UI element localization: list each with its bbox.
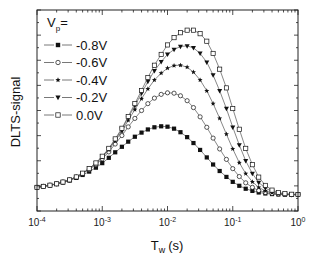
marker-filled-square (172, 127, 176, 131)
marker-open-square (224, 86, 228, 90)
marker-filled-square (224, 175, 228, 179)
marker-open-square (94, 161, 98, 165)
marker-open-circle (244, 181, 248, 185)
marker-open-circle (185, 99, 189, 103)
marker-open-square (55, 182, 59, 186)
marker-open-square (205, 39, 209, 43)
marker-open-square (159, 52, 163, 56)
marker-filled-square (231, 180, 235, 184)
marker-open-circle (198, 115, 202, 119)
marker-open-circle (191, 105, 195, 109)
marker-open-circle (146, 102, 150, 106)
marker-filled-square (165, 125, 169, 129)
marker-open-square (139, 88, 143, 92)
marker-open-square (61, 180, 65, 184)
marker-filled-square (178, 130, 182, 134)
marker-filled-square (185, 135, 189, 139)
marker-open-square (68, 178, 72, 182)
marker-open-square (263, 183, 267, 187)
marker-filled-square (159, 124, 163, 128)
y-axis-title: DLTS-signal (8, 77, 23, 148)
marker-open-square (185, 28, 189, 32)
marker-filled-square (56, 43, 60, 47)
marker-open-square (257, 175, 261, 179)
legend-label: -0.4V (76, 73, 107, 88)
marker-open-circle (56, 60, 60, 64)
marker-filled-square (120, 145, 124, 149)
legend-label: -0.8V (76, 38, 107, 53)
marker-open-circle (159, 92, 163, 96)
marker-open-circle (126, 125, 130, 129)
marker-filled-square (113, 150, 117, 154)
marker-filled-square (205, 155, 209, 159)
legend-label: -0.2V (76, 90, 107, 105)
marker-open-circle (211, 136, 215, 140)
marker-open-circle (218, 147, 222, 151)
x-axis-title-main: T (151, 238, 159, 253)
marker-open-square (74, 175, 78, 179)
marker-open-square (244, 146, 248, 150)
marker-open-circle (224, 157, 228, 161)
marker-open-circle (139, 108, 143, 112)
marker-filled-square (198, 148, 202, 152)
marker-filled-square (237, 184, 241, 188)
marker-open-square (276, 190, 280, 194)
marker-open-square (172, 36, 176, 40)
marker-filled-square (152, 125, 156, 129)
marker-open-square (100, 154, 104, 158)
legend-label: 0.0V (76, 108, 103, 123)
marker-open-square (107, 146, 111, 150)
marker-open-square (133, 102, 137, 106)
marker-open-circle (257, 188, 261, 192)
marker-open-square (87, 167, 91, 171)
marker-open-square (198, 32, 202, 36)
marker-filled-square (218, 169, 222, 173)
legend-label: -0.6V (76, 55, 107, 70)
marker-open-circle (165, 91, 169, 95)
marker-open-circle (237, 174, 241, 178)
marker-open-square (81, 171, 85, 175)
marker-open-circle (250, 185, 254, 189)
dlts-chart: 10-410-310-210-1100 DLTS-signal Tw(s) Vp… (0, 0, 312, 256)
legend-title-main: V (47, 15, 56, 30)
legend-title-suffix: = (60, 15, 68, 30)
marker-open-square (152, 63, 156, 67)
marker-open-square (48, 183, 52, 187)
marker-open-circle (172, 91, 176, 95)
marker-filled-square (133, 135, 137, 139)
marker-open-square (218, 67, 222, 71)
marker-open-circle (231, 167, 235, 171)
marker-open-square (231, 106, 235, 110)
marker-open-circle (120, 133, 124, 137)
marker-open-square (126, 114, 130, 118)
marker-open-square (41, 184, 45, 188)
marker-open-circle (178, 94, 182, 98)
marker-open-square (283, 192, 287, 196)
marker-open-square (270, 188, 274, 192)
marker-filled-square (139, 131, 143, 135)
x-axis-title-subscript: w (158, 245, 166, 255)
marker-open-square (290, 192, 294, 196)
marker-open-circle (152, 96, 156, 100)
marker-filled-square (211, 162, 215, 166)
marker-open-circle (133, 116, 137, 120)
marker-open-circle (205, 125, 209, 129)
marker-open-square (113, 137, 117, 141)
marker-open-square (56, 113, 60, 117)
marker-filled-square (191, 141, 195, 145)
marker-open-square (211, 51, 215, 55)
marker-open-square (146, 75, 150, 79)
marker-filled-square (107, 156, 111, 160)
marker-open-square (178, 31, 182, 35)
marker-filled-square (126, 140, 130, 144)
marker-open-square (250, 163, 254, 167)
marker-open-square (165, 43, 169, 47)
marker-filled-square (146, 127, 150, 131)
marker-open-square (237, 127, 241, 131)
x-axis-title-unit: (s) (168, 238, 183, 253)
marker-filled-square (244, 187, 248, 191)
marker-filled-square (100, 161, 104, 165)
marker-open-square (191, 28, 195, 32)
marker-open-square (120, 126, 124, 130)
